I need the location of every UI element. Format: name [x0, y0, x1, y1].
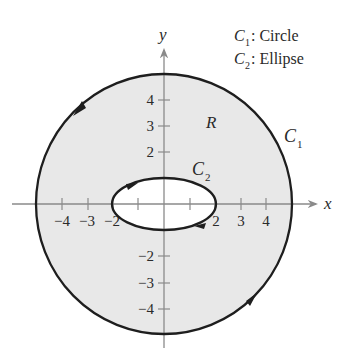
x-tick-label: 2 [212, 213, 220, 229]
legend: C 1 : Circle C 2 : Ellipse [234, 27, 304, 71]
legend-c2-main: C [234, 50, 245, 67]
legend-c1-main: C [234, 27, 245, 44]
x-tick-label: 3 [237, 213, 245, 229]
x-tick-label: −3 [79, 213, 95, 229]
arrow-icon [126, 183, 138, 190]
y-tick-label: 2 [147, 144, 155, 160]
legend-c1-text: : Circle [251, 27, 299, 44]
y-tick-label: −3 [138, 275, 154, 291]
diagram-figure: −4 −3 −2 2 3 4 4 3 2 −2 −3 −4 x y R C 1 … [0, 0, 346, 356]
c1-label-main: C [284, 126, 297, 146]
c2-label-main: C [192, 159, 205, 179]
legend-item-c1: C 1 : Circle [234, 27, 299, 48]
x-tick-label: 4 [262, 213, 270, 229]
c2-label-sub: 2 [205, 171, 211, 183]
c1-label-sub: 1 [297, 138, 303, 150]
legend-c1-sub: 1 [245, 37, 250, 48]
x-tick-label: −4 [54, 213, 70, 229]
y-tick-label: 3 [147, 118, 155, 134]
legend-c2-text: : Ellipse [251, 50, 304, 68]
x-axis-label: x [323, 194, 332, 213]
c1-label: C 1 [284, 126, 303, 150]
region-label: R [205, 113, 217, 132]
y-tick-label: 4 [147, 92, 155, 108]
y-tick-label: −4 [138, 301, 154, 317]
legend-item-c2: C 2 : Ellipse [234, 50, 304, 71]
x-tick-labels: −4 −3 −2 2 3 4 [54, 213, 270, 229]
y-axis-label: y [157, 25, 167, 44]
legend-c2-sub: 2 [245, 60, 250, 71]
y-tick-label: −2 [138, 248, 154, 264]
